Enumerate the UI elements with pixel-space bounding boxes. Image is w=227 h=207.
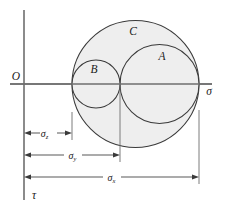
dimension-sigma-y: σy: [24, 150, 120, 163]
mohr-diagram-canvas: C A B O σ τ σz σy: [0, 0, 227, 207]
dim-sigma-x-left-arrow: [24, 174, 31, 179]
circle-c-label: C: [129, 25, 137, 37]
circle-b-label: B: [90, 63, 97, 75]
dim-sigma-y-subscript: y: [73, 155, 77, 162]
circle-a-label: A: [157, 50, 166, 62]
dim-sigma-y-label: σy: [69, 150, 77, 163]
dim-sigma-x-right-arrow: [192, 174, 199, 179]
dim-sigma-y-left-arrow: [24, 152, 31, 157]
dim-sigma-z-left-arrow: [24, 130, 31, 135]
dim-sigma-x-subscript: x: [112, 177, 116, 184]
dimension-sigma-z: σz: [24, 128, 72, 141]
dim-sigma-y-right-arrow: [113, 152, 120, 157]
dim-sigma-z-right-arrow: [65, 130, 72, 135]
dim-sigma-z-subscript: z: [45, 133, 49, 140]
dimension-sigma-x: σx: [24, 172, 199, 185]
dim-sigma-z-label: σz: [41, 128, 49, 141]
mohr-circle-figure: C A B O σ τ σz σy: [0, 0, 227, 207]
tau-axis-label: τ: [32, 189, 37, 201]
origin-label: O: [12, 70, 21, 82]
dim-sigma-x-label: σx: [108, 172, 116, 185]
sigma-axis-label: σ: [206, 85, 213, 97]
